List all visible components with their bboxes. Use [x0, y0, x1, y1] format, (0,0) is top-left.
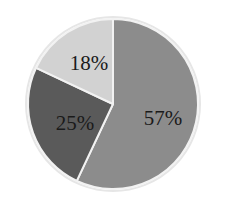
pie-slices: [28, 19, 198, 189]
slice-label-57: 57%: [144, 108, 183, 129]
slice-label-25: 25%: [56, 113, 95, 134]
slice-label-18: 18%: [70, 53, 109, 74]
pie-chart: 57% 25% 18%: [0, 0, 249, 219]
pie-chart-svg: [0, 0, 249, 219]
